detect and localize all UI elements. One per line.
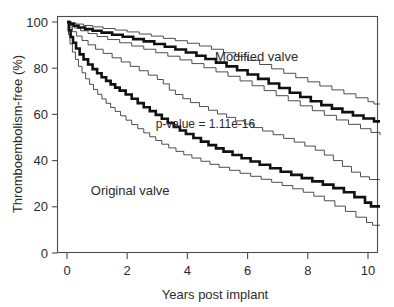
- x-tick-label: 2: [124, 263, 131, 278]
- x-axis-title: Years post implant: [162, 287, 269, 302]
- y-tick-label: 40: [34, 153, 48, 168]
- x-tick-label: 10: [361, 263, 375, 278]
- x-tick-label: 4: [184, 263, 191, 278]
- p-value-label: p-value = 1.11e-16: [156, 117, 256, 131]
- x-axis-tick-labels: 0246810: [63, 263, 375, 278]
- km-survival-chart: 020406080100 0246810 Years post implant …: [0, 0, 394, 307]
- x-axis-ticks: [67, 253, 368, 260]
- figure-container: 020406080100 0246810 Years post implant …: [0, 0, 394, 307]
- modified-valve-label: Modified valve: [215, 49, 298, 64]
- chart-annotations: Modified valveOriginal valvep-value = 1.…: [91, 49, 298, 198]
- y-tick-label: 60: [34, 107, 48, 122]
- y-tick-label: 80: [34, 61, 48, 76]
- x-tick-label: 6: [244, 263, 251, 278]
- y-axis-ticks: [52, 22, 58, 253]
- original-valve-label: Original valve: [91, 183, 170, 198]
- y-tick-label: 20: [34, 199, 48, 214]
- curve-original-valve-upper-95-ci: [67, 22, 380, 180]
- y-axis-tick-labels: 020406080100: [26, 15, 48, 261]
- x-tick-label: 0: [63, 263, 70, 278]
- x-tick-label: 8: [304, 263, 311, 278]
- y-tick-label: 100: [26, 15, 48, 30]
- y-tick-label: 0: [41, 246, 48, 261]
- y-axis-title: Thromboembolism-free (%): [10, 55, 25, 213]
